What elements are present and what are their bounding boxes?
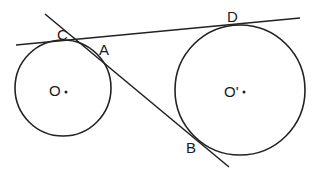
circle-o-prime [175,25,305,155]
label-a: A [99,41,109,58]
label-b: B [186,139,196,156]
label-o: O [49,82,61,99]
circle-o [15,40,111,136]
label-o-prime: O' [224,83,239,100]
label-c: C [57,26,68,43]
center-dot-o [65,91,68,94]
label-d: D [227,8,238,25]
center-dot-o-prime [243,91,246,94]
diagram-canvas: C A D B O O' [0,0,315,174]
